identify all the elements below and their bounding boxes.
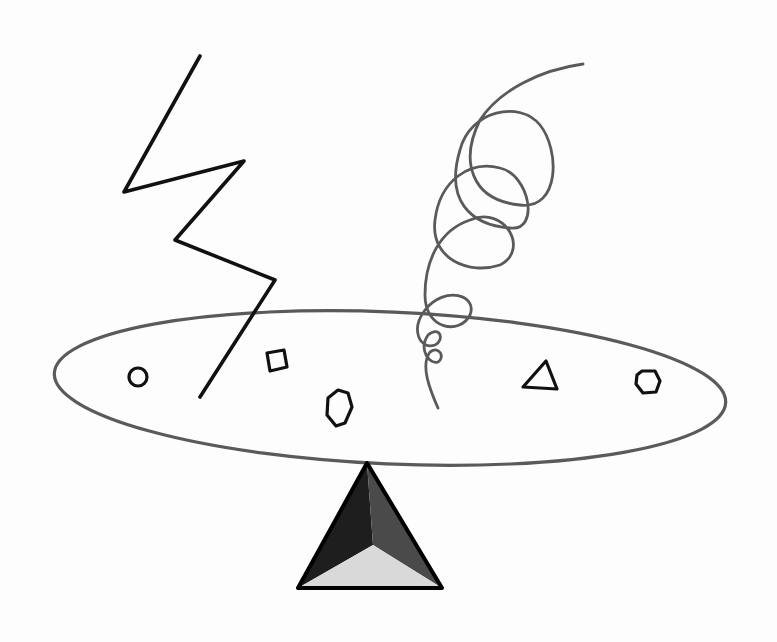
ellipse-outline [51, 297, 729, 478]
fulcrum-pyramid-icon [298, 463, 442, 588]
square-icon [267, 350, 287, 371]
sketch-svg [0, 0, 777, 642]
circle-icon [129, 368, 147, 386]
drawing-canvas [0, 0, 777, 642]
lightning-bolt-icon [124, 56, 275, 397]
ellipse-contents [129, 350, 660, 426]
spring-coil-icon [418, 64, 583, 408]
heptagon-icon [636, 371, 660, 393]
triangle-icon [523, 361, 557, 389]
hexagon-icon [327, 390, 352, 426]
